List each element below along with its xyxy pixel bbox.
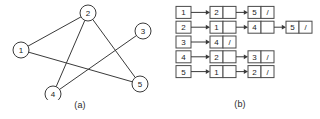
- list-node-value-5-0: 1: [214, 68, 219, 77]
- arrow-head: [206, 54, 210, 59]
- list-node-value-2-2: 5: [290, 23, 295, 32]
- panel-b-caption: (b): [200, 99, 280, 109]
- figure-container: 12345 (a) 125/2145/34/423/512/ (b): [0, 0, 320, 119]
- adjacency-row-1: 125/: [176, 6, 274, 18]
- list-node-value-1-1: 5: [252, 8, 257, 17]
- graph-panel: 12345 (a): [0, 0, 160, 119]
- arrow-head: [282, 25, 286, 30]
- index-cell-label-5: 5: [181, 68, 186, 77]
- list-node-pointer-box-2-1: [261, 21, 274, 33]
- index-cell-label-1: 1: [181, 8, 186, 17]
- panel-a-caption: (a): [0, 100, 160, 110]
- adjacency-row-5: 512/: [176, 66, 274, 78]
- graph-edge-2-4: [56, 20, 85, 86]
- list-node-pointer-box-2-0: [223, 21, 236, 33]
- arrow-head: [244, 10, 248, 15]
- graph-edge-3-4: [60, 36, 137, 90]
- graph-node-4: 4: [45, 86, 61, 100]
- list-node-value-4-1: 3: [252, 53, 257, 62]
- list-node-value-2-1: 4: [252, 23, 257, 32]
- index-cell-label-4: 4: [181, 53, 186, 62]
- adjacency-list-diagram: 125/2145/34/423/512/: [160, 0, 320, 99]
- arrow: [236, 25, 248, 30]
- arrow: [236, 10, 248, 15]
- arrow-head: [244, 69, 248, 74]
- graph-node-label-4: 4: [51, 90, 56, 99]
- graph-node-5: 5: [132, 76, 148, 92]
- list-node-value-3-0: 4: [214, 38, 219, 47]
- arrow-head: [206, 10, 210, 15]
- list-node-value-4-0: 2: [214, 53, 219, 62]
- list-node-pointer-box-4-0: [223, 51, 236, 63]
- graph-edge-2-5: [93, 19, 136, 77]
- graph-edge-1-2: [28, 17, 81, 46]
- list-node-value-2-0: 1: [214, 23, 219, 32]
- arrow-head: [244, 54, 248, 59]
- arrow-head: [206, 25, 210, 30]
- graph-node-1: 1: [13, 42, 29, 58]
- graph-node-label-2: 2: [86, 9, 91, 18]
- list-node-value-1-0: 2: [214, 8, 219, 17]
- adjacency-row-2: 2145/: [176, 21, 312, 33]
- adjacency-row-3: 34/: [176, 36, 236, 48]
- adjacency-list-panel: 125/2145/34/423/512/ (b): [160, 0, 320, 119]
- graph-node-label-1: 1: [19, 46, 24, 55]
- arrow-head: [206, 69, 210, 74]
- arrow: [191, 10, 210, 15]
- arrow: [236, 69, 248, 74]
- arrow-head: [244, 25, 248, 30]
- graph-node-2: 2: [80, 5, 96, 21]
- list-node-pointer-box-5-0: [223, 66, 236, 78]
- adjacency-row-4: 423/: [176, 51, 274, 63]
- list-node-pointer-box-1-0: [223, 6, 236, 18]
- index-cell-label-3: 3: [181, 38, 186, 47]
- arrow: [191, 25, 210, 30]
- graph-edge-1-5: [29, 52, 133, 82]
- arrow: [274, 25, 286, 30]
- list-node-value-5-1: 2: [252, 68, 257, 77]
- graph-node-label-5: 5: [138, 80, 143, 89]
- index-cell-label-2: 2: [181, 23, 186, 32]
- arrow: [191, 69, 210, 74]
- graph-node-label-3: 3: [141, 27, 146, 36]
- arrow: [236, 54, 248, 59]
- arrow-head: [206, 40, 210, 45]
- graph-diagram: 12345: [0, 0, 160, 100]
- arrow: [191, 54, 210, 59]
- arrow: [191, 40, 210, 45]
- graph-node-3: 3: [135, 23, 151, 39]
